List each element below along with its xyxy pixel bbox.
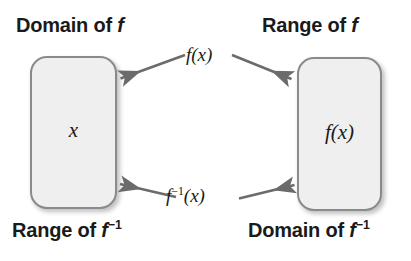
label-range-of-f-variable: f [351, 14, 357, 36]
label-domain-of-f-prefix: Domain of [16, 14, 117, 36]
label-range-of-f-inverse-superscript: −1 [108, 218, 122, 232]
label-domain-of-f: Domain of f [16, 14, 124, 37]
arrow-label-inverse-superscript: −1 [171, 185, 184, 198]
label-range-of-f-inverse: Range of f−1 [12, 218, 122, 242]
domain-set-box-content: x [69, 118, 78, 143]
arrow-label-forward: f(x) [186, 44, 212, 66]
inverse-function-diagram: Domain of f Range of f Range of f−1 Doma… [0, 0, 411, 261]
label-domain-of-f-variable: f [117, 14, 123, 36]
label-range-of-f-prefix: Range of [262, 14, 351, 36]
label-range-of-f-inverse-prefix: Range of [12, 219, 101, 241]
label-domain-of-f-inverse: Domain of f−1 [248, 218, 370, 242]
domain-set-box: x [30, 56, 117, 209]
label-domain-of-f-inverse-prefix: Domain of [248, 219, 349, 241]
range-set-box: f(x) [297, 57, 382, 211]
label-range-of-f: Range of f [262, 14, 358, 37]
arrow-label-inverse: f−1(x) [166, 185, 205, 207]
arrow-inverse-right-head [239, 185, 295, 199]
label-domain-of-f-inverse-superscript: −1 [356, 218, 370, 232]
range-set-box-content: f(x) [325, 120, 354, 145]
arrow-label-inverse-argument: (x) [184, 185, 205, 206]
arrow-label-forward-argument: (x) [191, 44, 212, 65]
arrow-forward-left-head [121, 55, 186, 79]
arrow-forward-right-head [232, 55, 292, 79]
